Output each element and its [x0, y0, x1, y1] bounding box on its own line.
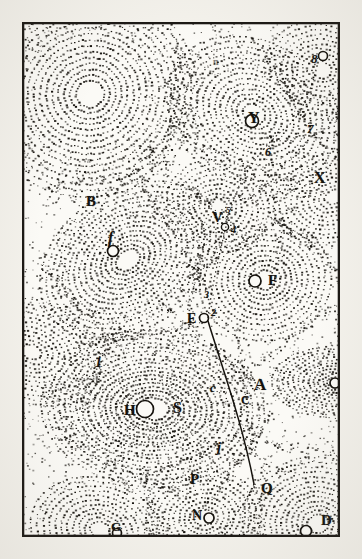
vortex-body-e — [200, 314, 209, 323]
label-Q: Q — [261, 481, 273, 496]
label-B: B — [86, 194, 96, 209]
label-N: N — [192, 509, 202, 523]
label-f: f — [108, 230, 113, 246]
label-j: j — [217, 441, 221, 455]
vortex-body-s — [137, 401, 154, 418]
figure-frame: 8nY76XBV54fF3E21LcACHSjPQNDGRM — [22, 22, 340, 537]
waypoint-8-marker — [319, 52, 328, 61]
label-H: H — [124, 403, 136, 418]
label-S: S — [173, 400, 182, 416]
label-G: G — [111, 520, 121, 533]
label-5: 5 — [226, 206, 231, 215]
label-4: 4 — [231, 225, 236, 235]
label-P: P — [190, 472, 199, 487]
vortex-engraving — [22, 22, 340, 537]
label-E: E — [187, 312, 196, 326]
label-X: X — [314, 170, 326, 186]
vortex-body-f — [108, 246, 119, 257]
label-1: 1 — [95, 356, 102, 370]
label-V: V — [212, 210, 223, 225]
label-7: 7 — [307, 122, 314, 135]
label-c: c — [210, 382, 215, 394]
label-3: 3 — [204, 290, 209, 300]
label-Y: Y — [248, 110, 260, 126]
label-D: D — [321, 513, 332, 528]
label-2: 2 — [211, 308, 216, 318]
engraving-plate: 8nY76XBV54fF3E21LcACHSjPQNDGRM — [0, 0, 362, 559]
label-8: 8 — [311, 52, 318, 65]
vortex-body-n — [204, 513, 214, 523]
label-C: C — [241, 394, 250, 406]
label-A: A — [254, 376, 266, 393]
label-n: n — [213, 57, 219, 67]
label-F: F — [268, 273, 277, 288]
vortex-body-f — [249, 275, 261, 287]
label-6: 6 — [265, 146, 271, 158]
